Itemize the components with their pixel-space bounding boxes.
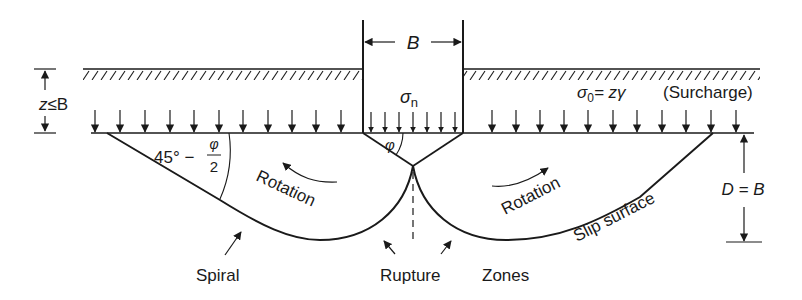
footing-width-label: B — [407, 32, 420, 53]
passive-angle-arc — [220, 133, 230, 199]
active-wedge — [363, 133, 463, 166]
surcharge-equation: σ0= zγ — [577, 83, 627, 105]
bearing-capacity-diagram: B σn — [0, 0, 802, 300]
wedge-angle-label: φ — [385, 136, 395, 153]
label-pointers — [225, 232, 451, 255]
slip-surface-right — [413, 133, 713, 240]
rupture-label: Rupture — [380, 266, 440, 285]
depth-d-label: D = B — [722, 180, 765, 199]
ground-surface — [83, 69, 760, 80]
zones-label: Zones — [482, 266, 529, 285]
passive-angle-prefix: 45° − — [154, 148, 194, 167]
footing-width-dimension: B — [365, 32, 461, 53]
footing-pressure-label: σn — [400, 87, 418, 110]
passive-angle-denominator: 2 — [210, 158, 218, 175]
slip-surface-label: Slip surface — [570, 188, 658, 245]
passive-angle-numerator: φ — [209, 136, 218, 152]
footing-pressure-arrows — [371, 112, 455, 132]
rotation-label-right: Rotation — [498, 173, 563, 219]
surcharge-label: (Surcharge) — [663, 83, 753, 102]
spiral-label: Spiral — [196, 266, 239, 285]
wedge-angle-arc — [396, 133, 403, 155]
surcharge-arrows-right — [492, 110, 736, 132]
surcharge-arrows-left — [95, 110, 341, 132]
rotation-label-left: Rotation — [253, 166, 318, 210]
depth-z-label: z≤B — [38, 95, 68, 114]
